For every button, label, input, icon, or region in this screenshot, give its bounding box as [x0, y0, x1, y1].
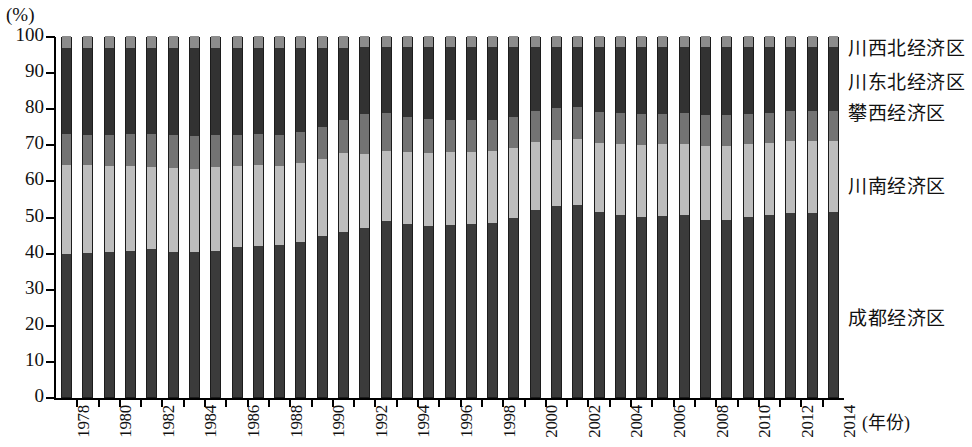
y-tick-mark	[46, 108, 55, 110]
bar-1984[interactable]	[189, 37, 200, 398]
x-tick-label: 2014	[840, 405, 860, 438]
bar-segment-川西北经济区	[573, 36, 582, 47]
bar-2002[interactable]	[572, 37, 583, 398]
bar-1979[interactable]	[82, 37, 93, 398]
bar-segment-川西北经济区	[83, 36, 92, 48]
y-tick-label: 100	[0, 24, 44, 46]
bar-segment-攀西经济区	[233, 135, 242, 166]
bar-1999[interactable]	[508, 37, 519, 398]
bar-segment-川东北经济区	[509, 47, 518, 117]
bar-2003[interactable]	[594, 37, 605, 398]
bar-segment-川东北经济区	[488, 47, 497, 120]
bar-segment-成都经济区	[488, 223, 497, 397]
bar-segment-成都经济区	[637, 217, 646, 398]
bar-segment-川南经济区	[701, 146, 710, 220]
bar-segment-成都经济区	[552, 206, 561, 397]
bar-segment-川南经济区	[275, 166, 284, 246]
bar-segment-川南经济区	[190, 169, 199, 253]
bar-segment-川东北经济区	[467, 47, 476, 120]
bar-2010[interactable]	[743, 37, 754, 398]
bar-segment-川南经济区	[169, 168, 178, 252]
bar-segment-攀西经济区	[531, 111, 540, 142]
bar-1987[interactable]	[253, 37, 264, 398]
bar-segment-成都经济区	[765, 215, 774, 397]
bar-segment-川东北经济区	[531, 47, 540, 111]
bar-segment-成都经济区	[744, 217, 753, 397]
bar-segment-川东北经济区	[296, 48, 305, 132]
bar-segment-川南经济区	[254, 165, 263, 246]
bar-segment-川南经济区	[296, 163, 305, 242]
bar-segment-川东北经济区	[595, 47, 604, 112]
bar-segment-攀西经济区	[744, 114, 753, 144]
bar-1995[interactable]	[423, 37, 434, 398]
x-tick-label: 1992	[372, 405, 392, 438]
bar-segment-攀西经济区	[296, 132, 305, 163]
bar-2007[interactable]	[679, 37, 690, 398]
bar-segment-川南经济区	[446, 152, 455, 225]
bar-segment-川南经济区	[62, 165, 71, 255]
bar-segment-川西北经济区	[829, 36, 838, 47]
bar-1994[interactable]	[402, 37, 413, 398]
x-tick-label: 1980	[116, 405, 136, 438]
bar-segment-川南经济区	[318, 159, 327, 237]
bar-segment-攀西经济区	[126, 134, 135, 166]
bar-1982[interactable]	[146, 37, 157, 398]
bar-segment-攀西经济区	[701, 115, 710, 146]
legend-label-川西北经济区: 川西北经济区	[848, 33, 965, 60]
bar-segment-川南经济区	[658, 144, 667, 216]
x-tick-mark	[524, 399, 526, 407]
bar-1992[interactable]	[359, 37, 370, 398]
bar-1983[interactable]	[168, 37, 179, 398]
bar-1989[interactable]	[295, 37, 306, 398]
bar-1997[interactable]	[466, 37, 477, 398]
bar-segment-川南经济区	[467, 152, 476, 224]
bar-segment-川西北经济区	[126, 36, 135, 48]
bar-1988[interactable]	[274, 37, 285, 398]
bar-segment-川东北经济区	[105, 48, 114, 135]
bar-segment-成都经济区	[169, 252, 178, 397]
bar-1991[interactable]	[338, 37, 349, 398]
bar-2008[interactable]	[700, 37, 711, 398]
bar-1980[interactable]	[104, 37, 115, 398]
bar-2012[interactable]	[785, 37, 796, 398]
bar-1990[interactable]	[317, 37, 328, 398]
bar-segment-成都经济区	[722, 220, 731, 397]
x-tick-mark	[651, 399, 653, 407]
bar-2000[interactable]	[530, 37, 541, 398]
bar-2001[interactable]	[551, 37, 562, 398]
bar-1993[interactable]	[381, 37, 392, 398]
bar-segment-川东北经济区	[701, 47, 710, 116]
bar-segment-川东北经济区	[765, 47, 774, 113]
bar-segment-攀西经济区	[147, 134, 156, 167]
bar-segment-川西北经济区	[190, 36, 199, 48]
bar-2014[interactable]	[828, 37, 839, 398]
bar-1981[interactable]	[125, 37, 136, 398]
bar-segment-攀西经济区	[829, 111, 838, 141]
bar-segment-川西北经济区	[254, 36, 263, 48]
bar-2011[interactable]	[764, 37, 775, 398]
bar-1978[interactable]	[61, 37, 72, 398]
x-tick-mark	[438, 399, 440, 407]
bar-segment-川东北经济区	[190, 48, 199, 136]
x-tick-mark	[737, 399, 739, 407]
bar-2013[interactable]	[807, 37, 818, 398]
bar-2009[interactable]	[721, 37, 732, 398]
bar-2004[interactable]	[615, 37, 626, 398]
bar-segment-川西北经济区	[211, 36, 220, 48]
bar-1998[interactable]	[487, 37, 498, 398]
bar-1996[interactable]	[445, 37, 456, 398]
bar-segment-川南经济区	[403, 152, 412, 224]
bar-segment-川西北经济区	[360, 36, 369, 47]
bar-segment-成都经济区	[403, 224, 412, 397]
bar-segment-川南经济区	[744, 144, 753, 217]
bar-segment-川南经济区	[339, 153, 348, 232]
legend-label-成都经济区: 成都经济区	[848, 303, 946, 330]
bar-2006[interactable]	[657, 37, 668, 398]
bar-segment-成都经济区	[658, 216, 667, 397]
bar-2005[interactable]	[636, 37, 647, 398]
bar-1986[interactable]	[232, 37, 243, 398]
bar-segment-成都经济区	[126, 251, 135, 397]
bar-segment-成都经济区	[105, 252, 114, 397]
bar-1985[interactable]	[210, 37, 221, 398]
bar-segment-成都经济区	[339, 232, 348, 397]
